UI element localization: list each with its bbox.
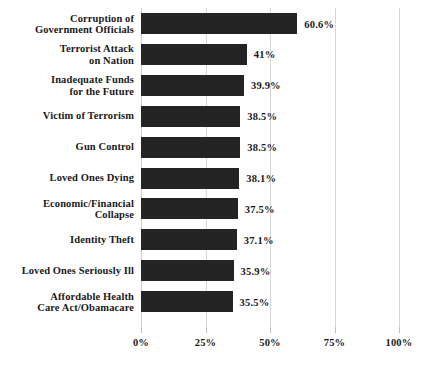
category-label: Economic/FinancialCollapse	[4, 197, 134, 220]
category-label: Loved Ones Dying	[4, 172, 134, 184]
bar-row: Inadequate Fundsfor the Future39.9%	[0, 75, 424, 96]
bar-chart: 0%25%50%75%100% Corruption ofGovernment …	[0, 0, 424, 367]
bar-value-label: 38.1%	[246, 173, 276, 184]
bar	[141, 75, 244, 96]
bar	[141, 44, 247, 65]
category-label-line: Economic/Financial	[43, 197, 134, 208]
bar	[141, 291, 233, 312]
x-tick-label: 50%	[259, 337, 281, 348]
x-tick-label: 75%	[324, 337, 346, 348]
bar	[141, 13, 297, 34]
category-label-line: for the Future	[69, 85, 134, 96]
category-label-line: Collapse	[95, 209, 134, 220]
tick-mark-50%	[270, 327, 271, 333]
tick-mark-100%	[399, 327, 400, 333]
bar	[141, 106, 240, 127]
bar	[141, 137, 240, 158]
bar	[141, 168, 239, 189]
bar-row: Identity Theft37.1%	[0, 229, 424, 250]
bar-value-label: 39.9%	[251, 80, 281, 91]
bar-row: Loved Ones Dying38.1%	[0, 168, 424, 189]
category-label: Gun Control	[4, 141, 134, 153]
bar-row: Economic/FinancialCollapse37.5%	[0, 198, 424, 219]
tick-mark-0%	[141, 327, 142, 333]
category-label-line: Victim of Terrorism	[43, 110, 134, 121]
bar-value-label: 35.5%	[240, 296, 270, 307]
x-tick-label: 25%	[195, 337, 217, 348]
category-label: Identity Theft	[4, 234, 134, 246]
bar-row: Affordable HealthCare Act/Obamacare35.5%	[0, 291, 424, 312]
bar-value-label: 37.1%	[244, 234, 274, 245]
bar	[141, 229, 237, 250]
bar-value-label: 38.5%	[247, 111, 277, 122]
category-label-line: Identity Theft	[70, 234, 134, 245]
bar-row: Loved Ones Seriously Ill35.9%	[0, 260, 424, 281]
bar-value-label: 38.5%	[247, 142, 277, 153]
category-label-line: Gun Control	[76, 141, 134, 152]
bar	[141, 260, 234, 281]
bar-value-label: 41%	[254, 49, 276, 60]
category-label: Corruption ofGovernment Officials	[4, 12, 134, 35]
tick-mark-75%	[335, 327, 336, 333]
bar-value-label: 60.6%	[304, 18, 334, 29]
category-label-line: Loved Ones Dying	[50, 172, 134, 183]
bar-row: Terrorist Attackon Nation41%	[0, 44, 424, 65]
category-label: Loved Ones Seriously Ill	[4, 265, 134, 277]
bar-value-label: 37.5%	[245, 203, 275, 214]
category-label-line: Inadequate Funds	[51, 74, 134, 85]
category-label-line: Terrorist Attack	[60, 43, 134, 54]
category-label: Inadequate Fundsfor the Future	[4, 74, 134, 97]
x-tick-label: 0%	[133, 337, 149, 348]
bar-value-label: 35.9%	[241, 265, 271, 276]
category-label: Victim of Terrorism	[4, 110, 134, 122]
tick-mark-25%	[206, 327, 207, 333]
category-label-line: Government Officials	[35, 24, 134, 35]
x-tick-label: 100%	[385, 337, 412, 348]
bar-row: Corruption ofGovernment Officials60.6%	[0, 13, 424, 34]
bar-row: Gun Control38.5%	[0, 137, 424, 158]
category-label-line: Care Act/Obamacare	[37, 302, 134, 313]
category-label-line: on Nation	[89, 54, 134, 65]
category-label-line: Affordable Health	[50, 290, 134, 301]
bar-row: Victim of Terrorism38.5%	[0, 106, 424, 127]
category-label: Terrorist Attackon Nation	[4, 43, 134, 66]
bar	[141, 198, 238, 219]
category-label-line: Corruption of	[70, 12, 134, 23]
category-label-line: Loved Ones Seriously Ill	[22, 265, 134, 276]
category-label: Affordable HealthCare Act/Obamacare	[4, 290, 134, 313]
